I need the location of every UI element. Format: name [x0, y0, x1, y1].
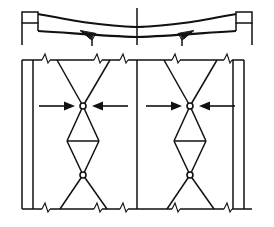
diagonal-brace-member — [190, 175, 214, 209]
diagonal-brace-member — [174, 141, 190, 175]
pin-connection-node — [187, 103, 193, 109]
left-abutment-block — [22, 12, 38, 23]
left-abutment-stem — [22, 23, 38, 45]
pin-connection-node — [80, 103, 86, 109]
pin-connection-node — [187, 172, 193, 178]
structural-diagram-figure — [0, 0, 274, 227]
diagonal-brace-member — [164, 60, 190, 106]
break-line-zigzag — [120, 203, 128, 212]
diagonal-brace-member — [190, 106, 206, 141]
right-column — [233, 60, 244, 209]
applied-load-arrow-head — [171, 102, 182, 111]
diagonal-brace-member — [167, 175, 190, 209]
diagonal-brace-member — [67, 106, 83, 141]
break-line-zigzag — [120, 54, 128, 63]
figure-caption-strip — [0, 0, 274, 9]
bay-left-bracing — [57, 60, 110, 209]
braced-frame-view — [22, 54, 252, 212]
diagonal-brace-member — [83, 106, 99, 141]
diagonal-brace-member — [57, 60, 83, 106]
break-line-zigzag — [172, 203, 180, 212]
break-line-zigzag — [94, 54, 102, 63]
break-line-zigzag — [224, 203, 232, 212]
diagonal-brace-member — [190, 60, 217, 106]
girder-elevation-view — [22, 8, 252, 46]
applied-load-arrow-head — [92, 102, 103, 111]
break-line-zigzag — [224, 54, 232, 63]
break-line-zigzag — [94, 203, 102, 212]
break-line-zigzag — [172, 54, 180, 63]
diagram-canvas — [0, 0, 274, 227]
diagonal-brace-member — [83, 175, 107, 209]
bay-right-bracing — [164, 60, 217, 209]
right-abutment-stem — [236, 23, 252, 45]
diagonal-brace-member — [67, 141, 83, 175]
right-abutment-block — [236, 12, 252, 23]
applied-load-arrow-head — [64, 102, 75, 111]
diagonal-brace-member — [83, 141, 99, 175]
applied-load-arrow-head — [199, 102, 210, 111]
break-line-zigzag — [42, 203, 50, 212]
diagonal-brace-member — [60, 175, 83, 209]
diagonal-brace-member — [190, 141, 206, 175]
diagonal-brace-member — [174, 106, 190, 141]
break-line-zigzag — [42, 54, 50, 63]
left-column — [22, 60, 33, 209]
pin-connection-node — [80, 172, 86, 178]
diagonal-brace-member — [83, 60, 110, 106]
